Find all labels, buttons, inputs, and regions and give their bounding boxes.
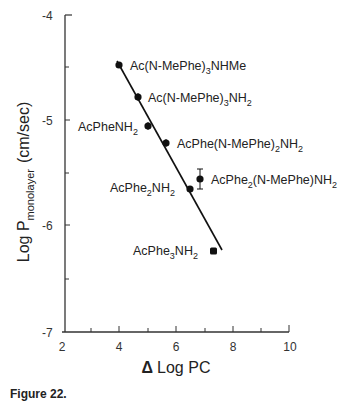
point-label: AcPhe(N-MePhe)2NH2	[177, 137, 303, 154]
figure-caption: Figure 22.	[10, 387, 67, 401]
point-label: AcPheNH2	[78, 120, 138, 137]
x-tick-label: 6	[173, 340, 180, 354]
x-tick-label: 8	[230, 340, 237, 354]
data-point	[186, 185, 193, 192]
y-ticks	[65, 67, 70, 279]
point-label: Ac(N-MePhe)3NHMe	[130, 59, 246, 76]
point-label: Ac(N-MePhe)3NH2	[148, 91, 252, 108]
y-tick-label: -4	[42, 9, 53, 23]
y-tick-label: -6	[42, 219, 53, 233]
x-ticks	[91, 325, 289, 332]
data-point	[115, 61, 122, 68]
point-label: AcPhe2(N-MePhe)NH2	[211, 173, 337, 190]
x-tick-label: 2	[59, 340, 66, 354]
y-tick-label: -5	[42, 114, 53, 128]
y-axis-title: Log Pmonolayer(cm/sec)	[15, 102, 36, 263]
x-tick-label: 4	[116, 340, 123, 354]
x-axis-title: ΔLog PC	[142, 359, 211, 376]
data-point	[210, 248, 217, 255]
point-label: AcPhe2NH2	[110, 181, 175, 198]
x-tick-label: 10	[283, 340, 297, 354]
point-label: AcPhe3NH2	[133, 244, 198, 261]
y-tick-label: -7	[42, 326, 53, 340]
regression-line	[117, 61, 222, 250]
